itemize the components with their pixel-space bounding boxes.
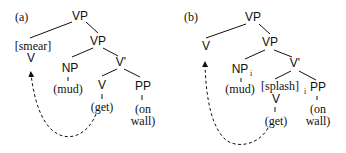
node-v-higher: V bbox=[202, 39, 210, 53]
movement-arrow-b bbox=[205, 64, 268, 144]
node-v-lower: V bbox=[98, 78, 106, 92]
edge-vbar-to-v bbox=[102, 69, 117, 76]
node-vbar: V' bbox=[290, 56, 300, 70]
word-wall: wall) bbox=[131, 114, 156, 128]
edge-vp-to-smear bbox=[30, 22, 72, 38]
node-np: NP bbox=[232, 62, 249, 76]
edge-vbar-to-pp bbox=[299, 71, 316, 80]
panel-b: (b) VP V VP NP i V' (mud) [splash] i V P… bbox=[184, 10, 330, 144]
node-vp-root: VP bbox=[72, 9, 88, 23]
word-mud: (mud) bbox=[225, 82, 254, 96]
word-get: (get) bbox=[91, 100, 114, 114]
edge-vp-to-vp2 bbox=[259, 24, 270, 34]
panel-a: (a) VP [smear] V VP NP V' (mud) V PP (ge… bbox=[15, 9, 156, 137]
edge-vbar-to-v bbox=[275, 71, 291, 79]
node-vp-root: VP bbox=[245, 10, 261, 24]
node-vp2: VP bbox=[262, 35, 278, 49]
edge-vp-to-v bbox=[206, 24, 246, 38]
edge-vp2-to-np bbox=[245, 50, 265, 59]
node-np: NP bbox=[62, 61, 79, 75]
np-index: i bbox=[250, 69, 253, 78]
edge-vp2-to-np bbox=[72, 48, 93, 57]
node-splash-feature: [splash] bbox=[261, 79, 299, 93]
node-vp2: VP bbox=[90, 34, 106, 48]
syntax-tree-figure: (a) VP [smear] V VP NP V' (mud) V PP (ge… bbox=[0, 0, 346, 153]
panel-a-label: (a) bbox=[15, 10, 28, 24]
node-vbar: V' bbox=[116, 55, 126, 69]
node-pp: PP bbox=[135, 79, 151, 93]
edge-vp-to-vp2 bbox=[86, 22, 98, 33]
splash-index: i bbox=[304, 87, 307, 96]
node-v-higher: V bbox=[27, 51, 35, 65]
word-mud: (mud) bbox=[53, 82, 82, 96]
node-pp: PP bbox=[310, 80, 326, 94]
node-v-lower: V bbox=[272, 92, 280, 106]
word-wall: wall) bbox=[306, 114, 331, 128]
word-get: (get) bbox=[265, 114, 288, 128]
panel-b-label: (b) bbox=[184, 10, 198, 24]
edge-vbar-to-pp bbox=[124, 69, 140, 77]
